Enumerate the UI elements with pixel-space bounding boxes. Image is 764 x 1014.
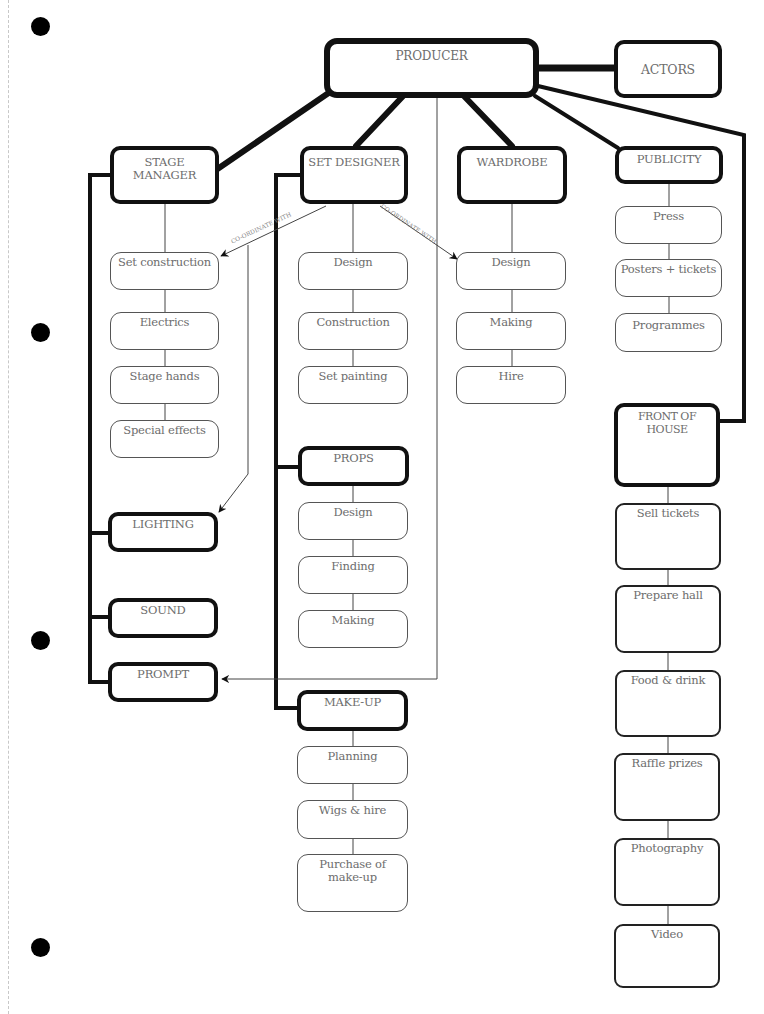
node-label: PRODUCER bbox=[330, 50, 533, 63]
hole-punch-3 bbox=[31, 631, 50, 650]
task-label: Design bbox=[457, 256, 565, 269]
task-label: Stage hands bbox=[111, 370, 218, 383]
hole-punch-1 bbox=[31, 17, 50, 36]
task-label: Design bbox=[299, 256, 407, 269]
node-label: FRONT OF HOUSE bbox=[618, 410, 716, 436]
page-margin-dashed-line bbox=[8, 0, 9, 1014]
node-label: PROMPT bbox=[112, 668, 214, 681]
node-label: MAKE-UP bbox=[301, 696, 404, 709]
task-label: Purchase of make-up bbox=[314, 858, 391, 884]
task-programmes[interactable]: Programmes bbox=[615, 313, 722, 352]
task-label: Design bbox=[299, 506, 407, 519]
node-label: SOUND bbox=[112, 604, 214, 617]
line-producer-publicity bbox=[535, 96, 618, 148]
node-make-up[interactable]: MAKE-UP bbox=[297, 690, 408, 731]
task-label: Planning bbox=[298, 750, 407, 763]
task-electrics[interactable]: Electrics bbox=[110, 312, 219, 350]
node-prompt[interactable]: PROMPT bbox=[108, 662, 218, 702]
node-sound[interactable]: SOUND bbox=[108, 598, 218, 638]
task-label: Making bbox=[457, 316, 565, 329]
node-lighting[interactable]: LIGHTING bbox=[108, 512, 218, 552]
task-posters-tickets[interactable]: Posters + tickets bbox=[615, 259, 722, 297]
task-raffle-prizes[interactable]: Raffle prizes bbox=[614, 753, 720, 821]
task-wigs-hire[interactable]: Wigs & hire bbox=[297, 800, 408, 839]
node-set-designer[interactable]: SET DESIGNER bbox=[300, 146, 408, 204]
task-sell-tickets[interactable]: Sell tickets bbox=[615, 503, 721, 570]
task-label: Posters + tickets bbox=[616, 263, 721, 276]
task-photography[interactable]: Photography bbox=[614, 838, 720, 906]
node-label: WARDROBE bbox=[461, 156, 563, 169]
line-producer-front-of-house bbox=[538, 86, 744, 421]
task-label: Raffle prizes bbox=[616, 757, 718, 770]
task-set-painting[interactable]: Set painting bbox=[298, 366, 408, 404]
task-label: Press bbox=[616, 210, 721, 223]
task-label: Photography bbox=[616, 842, 718, 855]
node-producer[interactable]: PRODUCER bbox=[324, 38, 539, 98]
task-wardrobe-hire[interactable]: Hire bbox=[456, 366, 566, 404]
task-set-design[interactable]: Design bbox=[298, 252, 408, 290]
node-label: LIGHTING bbox=[112, 518, 214, 531]
task-press[interactable]: Press bbox=[615, 206, 722, 244]
task-label: Programmes bbox=[616, 319, 721, 332]
task-label: Finding bbox=[299, 560, 407, 573]
task-planning[interactable]: Planning bbox=[297, 746, 408, 784]
node-props[interactable]: PROPS bbox=[298, 446, 409, 486]
line-producer-set-designer bbox=[356, 94, 405, 146]
task-label: Hire bbox=[457, 370, 565, 383]
node-label: ACTORS bbox=[618, 63, 718, 76]
task-label: Electrics bbox=[111, 316, 218, 329]
task-props-design[interactable]: Design bbox=[298, 502, 408, 540]
node-label: SET DESIGNER bbox=[304, 156, 404, 169]
node-front-of-house[interactable]: FRONT OF HOUSE bbox=[614, 403, 720, 487]
node-label: PROPS bbox=[302, 452, 405, 465]
task-set-construction[interactable]: Set construction bbox=[110, 252, 219, 290]
task-prepare-hall[interactable]: Prepare hall bbox=[615, 585, 721, 653]
coordinate-label-left: CO-ORDINATE WITH bbox=[230, 210, 293, 244]
node-label: STAGE MANAGER bbox=[114, 156, 215, 182]
node-actors[interactable]: ACTORS bbox=[614, 40, 722, 98]
node-label: PUBLICITY bbox=[619, 153, 719, 166]
org-chart-page: CO-ORDINATE WITH CO-ORDINATE WITH PRODUC… bbox=[0, 0, 764, 1014]
task-purchase-make-up[interactable]: Purchase of make-up bbox=[297, 854, 408, 912]
node-publicity[interactable]: PUBLICITY bbox=[615, 146, 723, 184]
task-label: Special effects bbox=[111, 424, 218, 437]
node-wardrobe[interactable]: WARDROBE bbox=[457, 146, 567, 204]
node-stage-manager[interactable]: STAGE MANAGER bbox=[110, 146, 219, 204]
task-stage-hands[interactable]: Stage hands bbox=[110, 366, 219, 404]
hole-punch-4 bbox=[31, 938, 50, 957]
task-label: Video bbox=[616, 928, 718, 941]
task-props-finding[interactable]: Finding bbox=[298, 556, 408, 594]
task-label: Set painting bbox=[299, 370, 407, 383]
task-label: Making bbox=[299, 614, 407, 627]
task-props-making[interactable]: Making bbox=[298, 610, 408, 648]
task-label: Construction bbox=[299, 316, 407, 329]
task-video[interactable]: Video bbox=[614, 924, 720, 988]
task-food-drink[interactable]: Food & drink bbox=[615, 670, 721, 737]
line-producer-wardrobe bbox=[462, 94, 512, 146]
task-wardrobe-design[interactable]: Design bbox=[456, 252, 566, 290]
hole-punch-2 bbox=[31, 323, 50, 342]
task-label: Wigs & hire bbox=[298, 804, 407, 817]
task-label: Food & drink bbox=[617, 674, 719, 687]
task-label: Set construction bbox=[111, 256, 218, 269]
coordinate-label-right: CO-ORDINATE WITH bbox=[380, 202, 438, 245]
task-label: Prepare hall bbox=[617, 589, 719, 602]
task-construction[interactable]: Construction bbox=[298, 312, 408, 350]
task-label: Sell tickets bbox=[617, 507, 719, 520]
task-special-effects[interactable]: Special effects bbox=[110, 420, 219, 458]
task-wardrobe-making[interactable]: Making bbox=[456, 312, 566, 350]
